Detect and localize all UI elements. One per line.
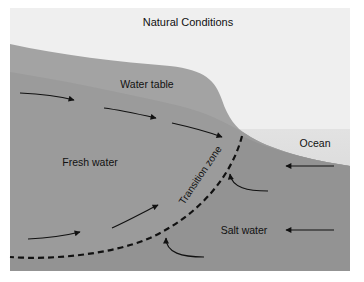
saltwater-intrusion-diagram: Natural Conditions Water table Fresh wat… [0,0,364,282]
diagram-title: Natural Conditions [143,16,234,28]
water-table-label: Water table [120,78,173,90]
ocean-label: Ocean [300,137,331,149]
fresh-water-label: Fresh water [62,156,118,168]
salt-water-label: Salt water [221,224,268,236]
